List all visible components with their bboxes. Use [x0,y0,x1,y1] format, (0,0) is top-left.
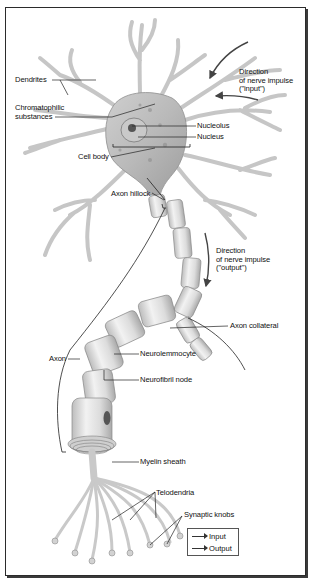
arrow-right-icon [192,536,207,537]
label-neurolemmocyte: Neurolemmocyte [140,350,196,359]
legend: Input Output [187,528,239,556]
label-nucleus: Nucleus [197,133,224,142]
label-nucleolus: Nucleolus [197,122,229,131]
label-axon-collateral: Axon collateral [230,322,278,331]
label-neurofibril-node: Neurofibril node [140,376,192,385]
label-dendrites: Dendrites [15,76,47,85]
label-synaptic-knobs: Synaptic knobs [184,511,234,520]
label-telodendria: Telodendria [156,489,194,498]
label-myelin-sheath: Myelin sheath [140,458,186,467]
legend-item-output: Output [192,543,232,553]
legend-label-output: Output [209,544,232,553]
legend-item-input: Input [192,531,226,541]
nucleolus-shape [128,124,136,132]
arrow-right-icon [192,548,207,549]
label-axon-hillock: Axon hillock [111,190,150,199]
label-direction-output: Direction of nerve impulse ("output") [216,247,270,273]
label-direction-input: Direction of nerve impulse ("input") [239,68,293,94]
synaptic-knobs [52,533,183,564]
label-cell-body: Cell body [78,153,109,162]
legend-label-input: Input [209,532,226,541]
telodendria [55,452,180,560]
label-chromatophilic-substances: Chromatophilic substances [15,104,64,121]
label-axon: Axon [49,355,66,364]
